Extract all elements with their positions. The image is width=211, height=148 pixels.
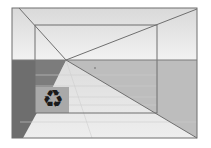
marker-dot <box>94 67 96 69</box>
perspective-diagram: ♻ <box>0 0 211 148</box>
diagram-svg <box>0 0 211 148</box>
recycle-icon: ♻ <box>40 85 66 113</box>
upper-region <box>12 8 197 60</box>
